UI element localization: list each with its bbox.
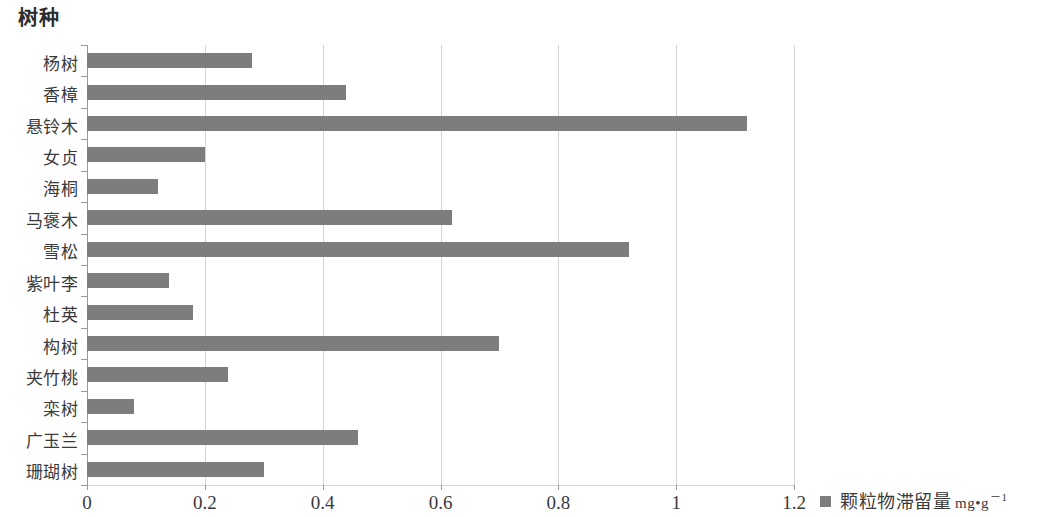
value-axis-label: 1.2 [782,492,806,514]
chart-title: 树种 [18,2,60,31]
bar-row [87,265,794,296]
bar-row [87,171,794,202]
value-axis-label: 0 [82,492,92,514]
bar[interactable] [87,210,452,225]
category-axis-label: 女贞 [0,144,78,169]
category-axis-label: 杜英 [0,301,78,326]
bar[interactable] [87,399,134,414]
bar[interactable] [87,116,747,131]
bar[interactable] [87,179,158,194]
category-axis-label: 栾树 [0,395,78,420]
value-axis-label: 0.4 [311,492,335,514]
category-axis-tick [81,45,87,46]
category-axis-tick [81,139,87,140]
category-axis-tick [81,359,87,360]
category-axis-tick [81,202,87,203]
bar[interactable] [87,367,228,382]
bar-row [87,296,794,327]
value-axis-tick [676,485,677,490]
bar-row [87,202,794,233]
category-axis-tick [81,454,87,455]
category-axis-label: 广玉兰 [0,427,78,452]
bar[interactable] [87,305,193,320]
bar[interactable] [87,430,358,445]
category-axis-label: 悬铃木 [0,113,78,138]
value-axis-label: 0.8 [546,492,570,514]
category-axis-label: 杨树 [0,50,78,75]
category-axis-tick [81,108,87,109]
value-axis-label: 1 [671,492,681,514]
bar-row [87,328,794,359]
bar[interactable] [87,147,205,162]
bar[interactable] [87,462,264,477]
category-axis-tick [81,234,87,235]
bar[interactable] [87,53,252,68]
bar-row [87,76,794,107]
legend-label: 颗粒物滞留量mg•g－1 [840,487,1007,513]
plot-area [87,45,794,485]
category-axis-tick [81,328,87,329]
category-axis-label: 海桐 [0,175,78,200]
value-axis-tick [87,485,88,490]
bar-row [87,139,794,170]
bar-row [87,359,794,390]
bar[interactable] [87,273,169,288]
value-axis-tick [794,485,795,490]
category-axis-label: 构树 [0,333,78,358]
category-axis-tick [81,76,87,77]
legend: 颗粒物滞留量mg•g－1 [820,487,1007,513]
bar-row [87,391,794,422]
value-axis-tick [558,485,559,490]
category-axis-tick [81,422,87,423]
category-axis-label: 紫叶李 [0,270,78,295]
category-axis-tick [81,391,87,392]
category-axis-tick [81,485,87,486]
bar-row [87,45,794,76]
value-axis-label: 0.2 [193,492,217,514]
value-axis-tick [323,485,324,490]
value-axis-tick [205,485,206,490]
category-axis-labels: 杨树香樟悬铃木女贞海桐马褒木雪松紫叶李杜英构树夹竹桃栾树广玉兰珊瑚树 [0,45,78,485]
category-axis-label: 雪松 [0,238,78,263]
bar[interactable] [87,85,346,100]
value-axis-tick [441,485,442,490]
gridline [794,45,795,485]
bar-row [87,454,794,485]
legend-series-name: 颗粒物滞留量 [840,492,951,512]
category-axis-tick [81,265,87,266]
legend-unit: mg•g [955,495,989,511]
category-axis-tick [81,296,87,297]
value-axis-label: 0.6 [429,492,453,514]
category-axis-label: 香樟 [0,81,78,106]
chart-canvas: 树种 杨树香樟悬铃木女贞海桐马褒木雪松紫叶李杜英构树夹竹桃栾树广玉兰珊瑚树 颗粒… [0,0,1051,517]
legend-swatch-icon [820,496,831,507]
category-axis-label: 珊瑚树 [0,458,78,483]
category-axis-label: 马褒木 [0,207,78,232]
bar-row [87,422,794,453]
bar[interactable] [87,336,499,351]
bar[interactable] [87,242,629,257]
bar-row [87,234,794,265]
legend-unit-exponent: －1 [990,491,1008,503]
category-axis-label: 夹竹桃 [0,364,78,389]
bar-row [87,108,794,139]
category-axis-tick [81,171,87,172]
